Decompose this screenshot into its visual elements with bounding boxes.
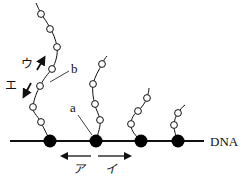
nucleotide-bead xyxy=(144,95,151,102)
label-a-katakana: ア xyxy=(73,162,87,176)
nucleotide-bead xyxy=(171,122,178,129)
nucleotide-bead xyxy=(47,26,54,33)
nucleotide-bead xyxy=(54,44,61,51)
arrow-e-icon xyxy=(24,83,31,96)
nucleotide-bead xyxy=(135,108,142,115)
rna-polymerase-3 xyxy=(135,135,148,148)
label-u: ウ xyxy=(21,57,33,71)
nucleotide-bead xyxy=(90,81,97,88)
label-i-katakana: イ xyxy=(105,162,118,176)
nucleotide-bead xyxy=(175,110,182,117)
rna-strand-3 xyxy=(128,88,151,141)
rna-polymerase-1 xyxy=(44,135,57,148)
nucleotide-bead xyxy=(38,119,45,126)
rna-strand-2 xyxy=(90,56,107,141)
label-a: a xyxy=(70,100,76,115)
rna-polymerase-4 xyxy=(172,135,185,148)
nucleotide-bead xyxy=(92,101,99,108)
label-e: エ xyxy=(5,79,17,93)
arrow-u-icon xyxy=(37,58,44,70)
nucleotide-bead xyxy=(97,117,104,124)
diagram-canvas: DNA a b ウ xyxy=(0,0,251,196)
nucleotide-bead xyxy=(99,61,106,68)
rna-strand-1 xyxy=(30,3,61,141)
dna-label: DNA xyxy=(210,134,239,149)
nucleotide-bead xyxy=(128,121,135,128)
leader-line-a xyxy=(78,115,92,135)
nucleotide-bead xyxy=(30,104,37,111)
nucleotide-bead xyxy=(38,11,45,18)
label-b: b xyxy=(71,61,78,76)
nucleotide-bead xyxy=(49,66,56,73)
nucleotide-bead xyxy=(37,83,44,90)
rna-polymerase-2 xyxy=(90,135,103,148)
